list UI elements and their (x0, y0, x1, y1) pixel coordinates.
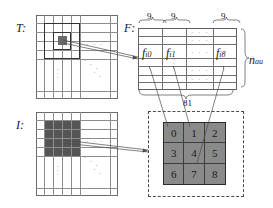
feature-ellipsis: · · · (191, 68, 209, 75)
image-gridline-h (36, 129, 118, 130)
feature-ellipsis: · · · (191, 77, 209, 84)
feature-row-line (138, 36, 237, 37)
feature-cell-sub-8: i8 (219, 50, 225, 59)
patch-cell-5: 5 (205, 143, 225, 163)
feature-table-outline (138, 28, 237, 90)
feature-ellipsis: · · · (191, 38, 209, 45)
brace-rows (241, 29, 249, 87)
feature-row-line (138, 66, 237, 67)
template-vertical-ellipsis: ··· (54, 68, 62, 80)
feature-row-line (138, 82, 237, 83)
patch-cell-0: 0 (164, 123, 184, 143)
template-gridline-v (80, 15, 81, 99)
image-gridline-v (80, 112, 81, 196)
template-gridline-h (36, 59, 118, 60)
image-gridline-v (53, 112, 54, 196)
patch-cell-1: 1 (184, 123, 204, 143)
segment-count-0: 9 (147, 12, 152, 21)
feature-row-line (138, 75, 237, 76)
segment-count-8: 9 (221, 12, 226, 21)
patch-cell-3: 3 (164, 143, 184, 163)
feature-col-line (162, 28, 163, 90)
image-gridline-v (62, 112, 63, 196)
image-gridline-h (36, 138, 118, 139)
total-feature-count: 81 (183, 99, 192, 108)
patch-cell-6: 6 (164, 164, 184, 184)
image-gridline-v (44, 112, 45, 196)
patch-cell-4: 4 (184, 143, 204, 163)
rows-count-sub: au (255, 57, 263, 66)
patch-cell-2: 2 (205, 123, 225, 143)
template-label: T: (16, 22, 26, 34)
feature-col-line (213, 28, 214, 90)
feature-cell-label-0: fi0 (142, 47, 152, 59)
template-horizontal-ellipsis: · · · (86, 42, 104, 49)
features-label: F: (124, 22, 135, 34)
template-center-pixel (58, 36, 67, 45)
image-horizontal-ellipsis: · · · (86, 139, 104, 146)
feature-cell-sub-0: i0 (145, 50, 151, 59)
image-gridline-h (36, 188, 118, 189)
template-gridline-h (36, 91, 118, 92)
patch-cell-8: 8 (205, 164, 225, 184)
brace-segment-0 (139, 17, 166, 23)
feature-row-line (138, 44, 237, 45)
segment-count-1: 9 (171, 12, 176, 21)
brace-segment-8 (213, 17, 240, 23)
image-gridline-h (36, 156, 118, 157)
brace-segment-1 (163, 17, 190, 23)
figure-canvas: T: · · · ··· · · · · · I: (0, 0, 273, 208)
feature-ellipsis: · · · (191, 30, 209, 37)
template-gridline-v (110, 15, 111, 99)
feature-ellipsis: · · · (191, 50, 209, 57)
image-gridline-v (110, 112, 111, 196)
patch-cell-7: 7 (184, 164, 204, 184)
feature-col-line (186, 28, 187, 90)
feature-cell-label-8: fi8 (216, 47, 226, 59)
rows-count-label: nau (249, 54, 263, 66)
image-label: I: (16, 119, 24, 131)
image-gridline-v (71, 112, 72, 196)
feature-vertical-ellipsis: ··· (171, 58, 177, 70)
image-vertical-ellipsis: ··· (54, 165, 62, 177)
image-gridline-h (36, 147, 118, 148)
neighbourhood-patch: 012345678 (163, 122, 226, 185)
image-gridline-h (36, 120, 118, 121)
